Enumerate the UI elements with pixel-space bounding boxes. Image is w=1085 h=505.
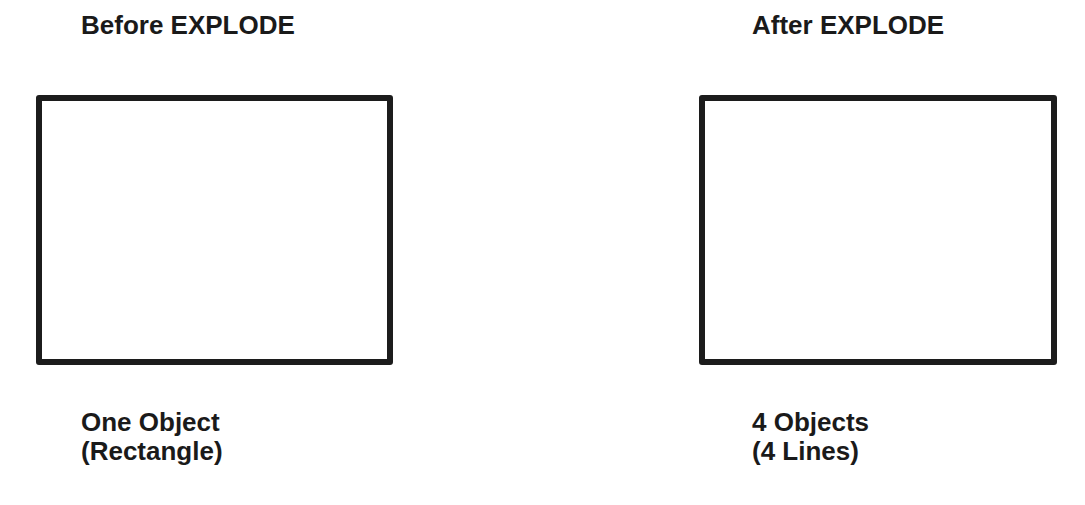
before-title: Before EXPLODE [81,10,295,41]
before-caption-line1: One Object [81,408,223,437]
rectangle-before [36,95,393,365]
rectangle-after [699,95,1057,365]
after-caption: 4 Objects (4 Lines) [752,408,869,466]
after-title: After EXPLODE [752,10,944,41]
before-caption: One Object (Rectangle) [81,408,223,466]
after-caption-line1: 4 Objects [752,408,869,437]
before-caption-line2: (Rectangle) [81,437,223,466]
after-caption-line2: (4 Lines) [752,437,869,466]
